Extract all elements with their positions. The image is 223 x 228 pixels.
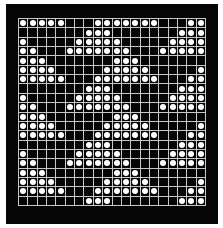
cell-empty[interactable] — [178, 75, 187, 84]
cell-empty[interactable] — [159, 187, 168, 196]
cell-with-piece[interactable] — [103, 84, 112, 93]
cell-with-piece[interactable] — [19, 94, 28, 103]
cell-empty[interactable] — [38, 103, 47, 112]
cell-empty[interactable] — [141, 94, 150, 103]
cell-with-piece[interactable] — [169, 47, 178, 56]
cell-with-piece[interactable] — [113, 159, 122, 168]
cell-with-piece[interactable] — [84, 159, 93, 168]
cell-empty[interactable] — [84, 122, 93, 131]
cell-with-piece[interactable] — [66, 47, 75, 56]
cell-with-piece[interactable] — [169, 94, 178, 103]
cell-empty[interactable] — [169, 75, 178, 84]
cell-empty[interactable] — [141, 28, 150, 37]
cell-with-piece[interactable] — [38, 169, 47, 178]
cell-with-piece[interactable] — [28, 113, 37, 122]
cell-empty[interactable] — [56, 178, 65, 187]
cell-with-piece[interactable] — [178, 159, 187, 168]
cell-empty[interactable] — [47, 197, 56, 206]
cell-with-piece[interactable] — [187, 75, 196, 84]
cell-with-piece[interactable] — [197, 66, 206, 75]
cell-with-piece[interactable] — [38, 122, 47, 131]
cell-with-piece[interactable] — [159, 159, 168, 168]
cell-empty[interactable] — [113, 197, 122, 206]
cell-with-piece[interactable] — [103, 159, 112, 168]
cell-empty[interactable] — [75, 141, 84, 150]
cell-with-piece[interactable] — [131, 66, 140, 75]
cell-with-piece[interactable] — [113, 178, 122, 187]
cell-empty[interactable] — [94, 66, 103, 75]
cell-with-piece[interactable] — [19, 131, 28, 140]
cell-with-piece[interactable] — [56, 75, 65, 84]
cell-empty[interactable] — [56, 66, 65, 75]
cell-with-piece[interactable] — [84, 197, 93, 206]
cell-empty[interactable] — [38, 197, 47, 206]
cell-with-piece[interactable] — [94, 19, 103, 28]
cell-empty[interactable] — [75, 122, 84, 131]
cell-with-piece[interactable] — [197, 47, 206, 56]
cell-empty[interactable] — [122, 38, 131, 47]
cell-empty[interactable] — [75, 197, 84, 206]
cell-empty[interactable] — [19, 141, 28, 150]
cell-empty[interactable] — [197, 169, 206, 178]
cell-empty[interactable] — [38, 28, 47, 37]
cell-empty[interactable] — [28, 197, 37, 206]
cell-empty[interactable] — [66, 75, 75, 84]
cell-empty[interactable] — [38, 141, 47, 150]
cell-with-piece[interactable] — [84, 38, 93, 47]
cell-with-piece[interactable] — [131, 187, 140, 196]
cell-with-piece[interactable] — [28, 131, 37, 140]
cell-empty[interactable] — [47, 56, 56, 65]
cell-with-piece[interactable] — [19, 178, 28, 187]
cell-empty[interactable] — [47, 103, 56, 112]
cell-empty[interactable] — [84, 178, 93, 187]
cell-with-piece[interactable] — [56, 131, 65, 140]
cell-empty[interactable] — [122, 141, 131, 150]
cell-empty[interactable] — [178, 131, 187, 140]
cell-empty[interactable] — [187, 66, 196, 75]
cell-empty[interactable] — [150, 113, 159, 122]
cell-empty[interactable] — [38, 150, 47, 159]
cell-with-piece[interactable] — [187, 131, 196, 140]
cell-empty[interactable] — [169, 84, 178, 93]
cell-with-piece[interactable] — [75, 150, 84, 159]
cell-empty[interactable] — [159, 94, 168, 103]
cell-with-piece[interactable] — [28, 159, 37, 168]
cell-empty[interactable] — [56, 28, 65, 37]
cell-with-piece[interactable] — [197, 178, 206, 187]
cell-empty[interactable] — [19, 197, 28, 206]
cell-empty[interactable] — [159, 66, 168, 75]
cell-with-piece[interactable] — [103, 141, 112, 150]
cell-empty[interactable] — [159, 178, 168, 187]
cell-empty[interactable] — [66, 122, 75, 131]
cell-with-piece[interactable] — [159, 103, 168, 112]
cell-with-piece[interactable] — [94, 197, 103, 206]
cell-with-piece[interactable] — [187, 150, 196, 159]
cell-empty[interactable] — [66, 66, 75, 75]
cell-with-piece[interactable] — [84, 141, 93, 150]
cell-empty[interactable] — [56, 47, 65, 56]
cell-empty[interactable] — [28, 141, 37, 150]
cell-with-piece[interactable] — [187, 197, 196, 206]
cell-empty[interactable] — [159, 113, 168, 122]
cell-with-piece[interactable] — [113, 122, 122, 131]
cell-with-piece[interactable] — [19, 66, 28, 75]
cell-empty[interactable] — [159, 28, 168, 37]
cell-empty[interactable] — [169, 187, 178, 196]
cell-empty[interactable] — [150, 197, 159, 206]
cell-with-piece[interactable] — [122, 66, 131, 75]
cell-empty[interactable] — [47, 113, 56, 122]
cell-with-piece[interactable] — [38, 187, 47, 196]
cell-with-piece[interactable] — [47, 131, 56, 140]
cell-empty[interactable] — [56, 113, 65, 122]
cell-empty[interactable] — [113, 84, 122, 93]
cell-empty[interactable] — [169, 178, 178, 187]
cell-empty[interactable] — [169, 197, 178, 206]
cell-empty[interactable] — [187, 113, 196, 122]
cell-with-piece[interactable] — [75, 103, 84, 112]
cell-with-piece[interactable] — [197, 84, 206, 93]
cell-with-piece[interactable] — [103, 19, 112, 28]
cell-empty[interactable] — [122, 28, 131, 37]
cell-empty[interactable] — [75, 19, 84, 28]
cell-empty[interactable] — [169, 56, 178, 65]
cell-empty[interactable] — [56, 103, 65, 112]
